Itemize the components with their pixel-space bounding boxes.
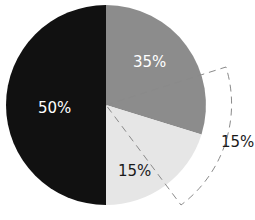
label-35: 35% — [133, 53, 166, 71]
pie-chart: 50% 35% 15% 15% — [0, 0, 255, 220]
label-15-inner: 15% — [118, 162, 151, 180]
label-15-outer: 15% — [221, 133, 254, 151]
label-50: 50% — [38, 99, 71, 117]
